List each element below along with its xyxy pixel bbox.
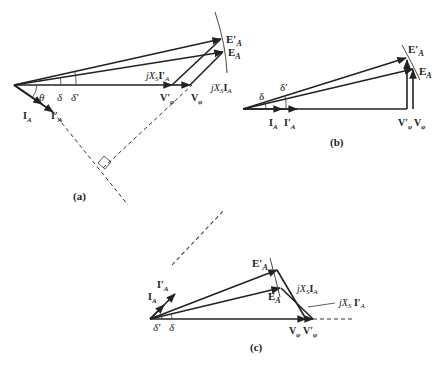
e-a-prime-phasor	[14, 39, 221, 85]
label-v-phi-prime: V′φ	[160, 92, 174, 106]
label-i-a-b: IA	[269, 117, 278, 131]
caption-c: (c)	[250, 341, 263, 354]
e-a-phasor-b	[243, 69, 413, 109]
label-v-phi: Vφ	[191, 92, 202, 106]
e-a-prime-phasor-c	[150, 270, 277, 319]
leader-line-jxs-ia-prime	[308, 303, 335, 307]
label-e-a: EA	[228, 46, 241, 61]
label-e-a-prime-b: E′A	[408, 43, 424, 58]
jxs-ia-phasor	[190, 53, 222, 85]
label-e-a-b: EA	[419, 65, 432, 80]
e-a-prime-phasor-b	[243, 58, 406, 109]
label-i-a-prime-c: I′A	[157, 279, 169, 293]
phasor-diagram-figure: E′A EA jXSI′A jXSIA V′φ Vφ θ δ δ′ IA I′A…	[0, 0, 446, 366]
panel-c: E′A EA jXSIA jXS I′A Vφ V′φ δ′ δ IA I′A …	[148, 211, 366, 354]
label-jxs-ia-c: jXSIA	[295, 283, 318, 296]
label-jxs-ia-prime-c: jXS I′A	[337, 297, 366, 310]
i-a-phasor	[14, 85, 42, 104]
label-i-a-c: IA	[148, 291, 157, 305]
theta-angle-arc	[32, 85, 37, 98]
label-delta: δ	[57, 91, 63, 103]
label-delta-prime: δ′	[71, 91, 79, 103]
delta-prime-angle-arc	[75, 72, 76, 85]
caption-b: (b)	[330, 136, 344, 149]
label-delta-b: δ	[259, 90, 264, 102]
current-direction-dashed-line	[53, 112, 128, 205]
panel-b: E′A EA δ δ′ IA I′A V′φ Vφ (b)	[243, 43, 432, 149]
label-v-phi-prime-b: V′φ	[398, 117, 412, 131]
label-e-a-prime-c: E′A	[252, 257, 268, 272]
label-i-a: IA	[23, 110, 32, 124]
label-v-phi-c: Vφ	[289, 325, 300, 339]
e-a-phasor-c	[150, 288, 280, 319]
panel-a: E′A EA jXSI′A jXSIA V′φ Vφ θ δ δ′ IA I′A…	[14, 12, 242, 205]
label-jxs-ia-prime: jXSI′A	[144, 70, 170, 83]
label-delta-prime-c: δ′	[153, 321, 161, 333]
label-delta-c: δ	[169, 321, 175, 333]
label-delta-prime-b: δ′	[280, 81, 288, 93]
label-i-a-prime: I′A	[51, 110, 63, 124]
label-theta: θ	[39, 91, 45, 103]
current-direction-dashed-line-c	[161, 211, 234, 265]
caption-a: (a)	[73, 190, 86, 203]
label-v-phi-b: Vφ	[414, 117, 425, 131]
label-i-a-prime-b: I′A	[284, 117, 296, 131]
perpendicular-dashed-line	[103, 85, 192, 168]
jxs-ia-phasor-c	[277, 270, 306, 319]
label-jxs-ia: jXSIA	[209, 82, 232, 95]
delta-prime-angle-arc-b	[285, 96, 286, 109]
label-e-a-c: EA	[268, 290, 281, 305]
label-v-phi-prime-c: V′φ	[303, 325, 317, 339]
e-a-phasor	[14, 52, 223, 85]
